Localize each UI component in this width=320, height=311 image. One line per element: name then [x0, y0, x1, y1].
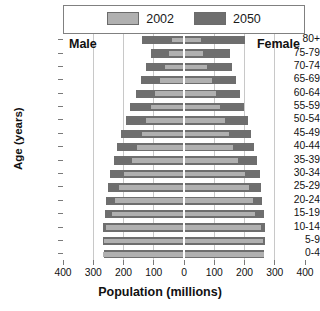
- y-tick-mark: [58, 200, 63, 201]
- bar-2002-male: [132, 158, 184, 163]
- x-tick-label: 100: [145, 267, 162, 278]
- y-tick-label: 0-4: [264, 248, 320, 258]
- bar-2002-male: [119, 185, 184, 190]
- x-tick-label: 200: [236, 267, 253, 278]
- population-pyramid-figure: 2002 2050 Male Female Age (years) Popula…: [0, 0, 320, 311]
- y-tick-label: 25-29: [264, 181, 320, 191]
- y-tick-mark: [58, 79, 63, 80]
- x-tick-mark: [274, 260, 275, 265]
- bar-2002-female: [184, 158, 238, 163]
- bar-2002-female: [184, 225, 261, 230]
- bar-2002-male: [104, 239, 184, 244]
- y-tick-mark: [58, 119, 63, 120]
- male-side-label: Male: [69, 37, 97, 51]
- bar-2002-female: [184, 198, 253, 203]
- bar-2002-male: [103, 252, 184, 257]
- bar-2002-male: [142, 132, 184, 137]
- bar-2002-female: [184, 212, 255, 217]
- bar-2002-female: [184, 78, 212, 83]
- bar-2002-female: [184, 105, 220, 110]
- x-tick-label: 100: [206, 267, 223, 278]
- x-tick-mark: [123, 260, 124, 265]
- bar-2002-male: [165, 65, 184, 70]
- bar-2002-male: [115, 198, 184, 203]
- y-tick-label: 65-69: [264, 74, 320, 84]
- y-tick-label: 5-9: [264, 235, 320, 245]
- bar-2002-female: [184, 132, 229, 137]
- bar-2002-female: [184, 91, 216, 96]
- y-tick-mark: [58, 93, 63, 94]
- y-tick-label: 10-14: [264, 222, 320, 232]
- y-tick-mark: [58, 106, 63, 107]
- bar-2002-male: [124, 172, 185, 177]
- bar-2002-male: [151, 105, 184, 110]
- y-tick-mark: [58, 66, 63, 67]
- bar-2002-male: [172, 38, 184, 43]
- x-tick-label: 400: [54, 267, 71, 278]
- y-axis-title: Age (years): [12, 107, 24, 170]
- y-tick-mark: [58, 240, 63, 241]
- bar-2002-female: [184, 118, 225, 123]
- bar-2002-female: [184, 185, 249, 190]
- legend-label-2050: 2050: [233, 12, 261, 26]
- bar-2002-female: [184, 239, 263, 244]
- legend-entry-2050: 2050: [194, 12, 261, 26]
- y-tick-mark: [58, 160, 63, 161]
- y-tick-mark: [58, 133, 63, 134]
- chart-legend: 2002 2050: [63, 5, 305, 32]
- x-tick-mark: [63, 260, 64, 265]
- bar-2002-male: [137, 145, 184, 150]
- y-tick-mark: [58, 253, 63, 254]
- y-tick-label: 30-34: [264, 168, 320, 178]
- x-tick-label: 300: [85, 267, 102, 278]
- bar-2002-female: [184, 172, 245, 177]
- y-tick-mark: [58, 213, 63, 214]
- x-axis-title: Population (millions): [0, 285, 320, 299]
- y-tick-label: 50-54: [264, 114, 320, 124]
- y-tick-mark: [58, 146, 63, 147]
- x-tick-mark: [305, 260, 306, 265]
- y-tick-mark: [58, 39, 63, 40]
- y-tick-label: 60-64: [264, 88, 320, 98]
- x-tick-mark: [184, 260, 185, 265]
- bar-2002-female: [184, 65, 207, 70]
- y-tick-mark: [58, 173, 63, 174]
- x-tick-mark: [244, 260, 245, 265]
- y-tick-label: 15-19: [264, 208, 320, 218]
- bar-2002-female: [184, 38, 201, 43]
- bar-2002-male: [112, 212, 184, 217]
- bar-2002-female: [184, 51, 203, 56]
- legend-swatch-2050: [194, 12, 226, 25]
- x-tick-label: 200: [115, 267, 132, 278]
- legend-label-2002: 2002: [146, 12, 174, 26]
- bar-2002-female: [184, 252, 264, 257]
- y-tick-label: 45-49: [264, 128, 320, 138]
- bar-2002-male: [169, 51, 184, 56]
- axis-zero-mask: [183, 34, 185, 261]
- legend-swatch-2002: [107, 12, 139, 25]
- bar-2002-female: [184, 145, 233, 150]
- x-tick-label: 300: [266, 267, 283, 278]
- y-tick-label: 35-39: [264, 155, 320, 165]
- x-tick-mark: [93, 260, 94, 265]
- y-tick-mark: [58, 186, 63, 187]
- x-tick-label: 400: [296, 267, 313, 278]
- x-tick-mark: [153, 260, 154, 265]
- bar-2002-male: [155, 91, 184, 96]
- y-tick-label: 70-74: [264, 61, 320, 71]
- y-tick-mark: [58, 53, 63, 54]
- y-tick-mark: [58, 227, 63, 228]
- bar-2002-male: [146, 118, 184, 123]
- bar-2002-male: [160, 78, 184, 83]
- x-tick-label: 0: [181, 267, 187, 278]
- bar-2002-male: [106, 225, 184, 230]
- y-tick-label: 40-44: [264, 141, 320, 151]
- legend-entry-2002: 2002: [107, 12, 174, 26]
- y-tick-label: 20-24: [264, 195, 320, 205]
- y-tick-label: 55-59: [264, 101, 320, 111]
- female-side-label: Female: [257, 37, 300, 51]
- x-tick-mark: [214, 260, 215, 265]
